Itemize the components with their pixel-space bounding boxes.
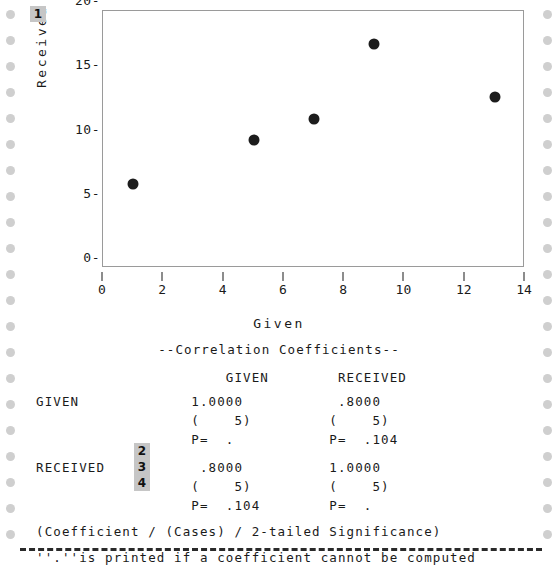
report-row-given-value: GIVEN 1.0000 .8000 (0, 392, 558, 411)
x-tick-mark (463, 272, 464, 281)
x-tick-label: 8 (339, 282, 347, 297)
report-row-given-cases: ( 5) ( 5) (0, 411, 558, 430)
x-tick-mark (403, 272, 404, 281)
report-row-received-value: RECEIVED .8000 1.0000 (0, 458, 558, 477)
y-tick-label: 0- (83, 250, 100, 265)
y-tick-label: 10- (75, 121, 100, 136)
report-column-headers: GIVEN RECEIVED (0, 368, 558, 387)
x-tick-mark (102, 272, 103, 281)
x-tick-label: 4 (219, 282, 227, 297)
data-point (489, 92, 500, 103)
y-tick-label: 20- (75, 0, 100, 8)
y-tick-label: 5- (83, 185, 100, 200)
x-tick-label: 12 (456, 282, 472, 297)
report-footnote-1: (Coefficient / (Cases) / 2-tailed Signif… (0, 522, 558, 541)
x-tick-label: 2 (158, 282, 166, 297)
x-tick-mark (222, 272, 223, 281)
page-bottom-rule (20, 548, 542, 551)
x-tick-label: 0 (98, 282, 106, 297)
x-tick-label: 14 (516, 282, 532, 297)
x-tick-mark (282, 272, 283, 281)
scatter-chart: 20-15-10-5-0- 02468101214 Received Given (0, 0, 558, 300)
report-heading: --Correlation Coefficients-- (0, 340, 558, 359)
x-tick-label: 6 (279, 282, 287, 297)
x-tick-mark (524, 272, 525, 281)
y-tick-label: 15- (75, 57, 100, 72)
report-row-given-p: P= . P= .104 (0, 430, 558, 449)
x-axis-title: Given (0, 316, 558, 331)
correlation-report: --Correlation Coefficients-- GIVEN RECEI… (0, 340, 558, 549)
annotation-badge-1[interactable]: 1 (30, 6, 46, 22)
data-point (128, 179, 139, 190)
x-tick-mark (343, 272, 344, 281)
y-axis-ticks: 20-15-10-5-0- (56, 0, 100, 257)
data-point (309, 113, 320, 124)
report-row-received-p: P= .104 P= . (0, 496, 558, 515)
plot-area (102, 10, 524, 267)
x-tick-label: 10 (396, 282, 412, 297)
x-axis-ticks: 02468101214 (102, 267, 524, 307)
x-tick-mark (162, 272, 163, 281)
data-point (369, 39, 380, 50)
data-point (248, 134, 259, 145)
report-row-received-cases: ( 5) ( 5) (0, 477, 558, 496)
